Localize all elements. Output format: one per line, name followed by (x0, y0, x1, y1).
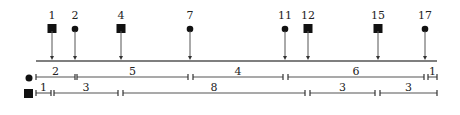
interval-length-label: 8 (211, 81, 218, 94)
interval-length-label: 6 (353, 65, 360, 78)
interval-length-label: 5 (129, 65, 136, 78)
interval-length-label: 1 (429, 65, 436, 78)
arrow-head-icon (306, 56, 310, 60)
event-marker: 15 (371, 9, 385, 60)
circle-legend-icon (26, 75, 33, 82)
event-label: 1 (49, 9, 56, 22)
arrow-head-icon (423, 56, 427, 60)
interval-segment: 1 (428, 65, 437, 80)
interval-segment: 2 (36, 65, 75, 80)
arrow-head-icon (283, 56, 287, 60)
interval-length-label: 2 (52, 65, 59, 78)
event-label: 2 (72, 9, 79, 22)
interval-length-label: 3 (339, 81, 346, 94)
interval-segment: 6 (288, 65, 424, 80)
event-marker: 17 (418, 9, 432, 60)
event-marker: 11 (278, 9, 292, 60)
interval-segment: 3 (380, 81, 437, 96)
event-marker: 1 (48, 9, 57, 60)
event-label: 4 (118, 9, 125, 22)
interval-segment: 1 (36, 81, 51, 96)
interval-length-label: 3 (83, 81, 90, 94)
interval-segment: 4 (193, 65, 283, 80)
arrow-head-icon (188, 56, 192, 60)
event-label: 15 (371, 9, 385, 22)
event-label: 7 (187, 9, 194, 22)
arrow-head-icon (119, 56, 123, 60)
event-label: 12 (301, 9, 315, 22)
arrow-head-icon (50, 56, 54, 60)
interval-length-label: 4 (235, 65, 242, 78)
interval-length-label: 1 (40, 81, 47, 94)
interval-diagram: 1247111215172546113833 (0, 0, 460, 115)
event-marker: 2 (72, 9, 79, 60)
square-legend-icon (24, 89, 33, 98)
event-marker: 4 (117, 9, 126, 60)
arrow-head-icon (73, 56, 77, 60)
interval-length-label: 3 (405, 81, 412, 94)
interval-row-circle: 25461 (26, 65, 438, 82)
interval-segment: 3 (310, 81, 375, 96)
interval-row-square: 13833 (24, 81, 437, 98)
event-marker: 7 (187, 9, 194, 60)
event-marker: 12 (301, 9, 315, 60)
interval-segment: 3 (54, 81, 118, 96)
event-label: 17 (418, 9, 432, 22)
arrow-head-icon (376, 56, 380, 60)
interval-segment: 5 (77, 65, 188, 80)
event-label: 11 (278, 9, 292, 22)
interval-segment: 8 (123, 81, 305, 96)
